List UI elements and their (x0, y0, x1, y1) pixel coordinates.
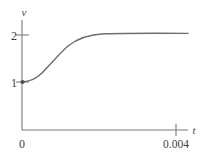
origin-tick-label: 0 (19, 137, 25, 151)
y-tick-label-1: 1 (11, 76, 17, 90)
plot-canvas: v t 2 1 0 0.004 (0, 0, 202, 154)
x-tick-label-0004: 0.004 (163, 138, 189, 150)
start-point-marker (20, 80, 24, 84)
chart-figure: v t 2 1 0 0.004 (0, 0, 202, 154)
y-tick-label-2: 2 (11, 29, 17, 43)
x-axis-label: t (192, 124, 196, 136)
curve-v-of-t (22, 33, 188, 82)
y-axis-label: v (22, 6, 27, 18)
